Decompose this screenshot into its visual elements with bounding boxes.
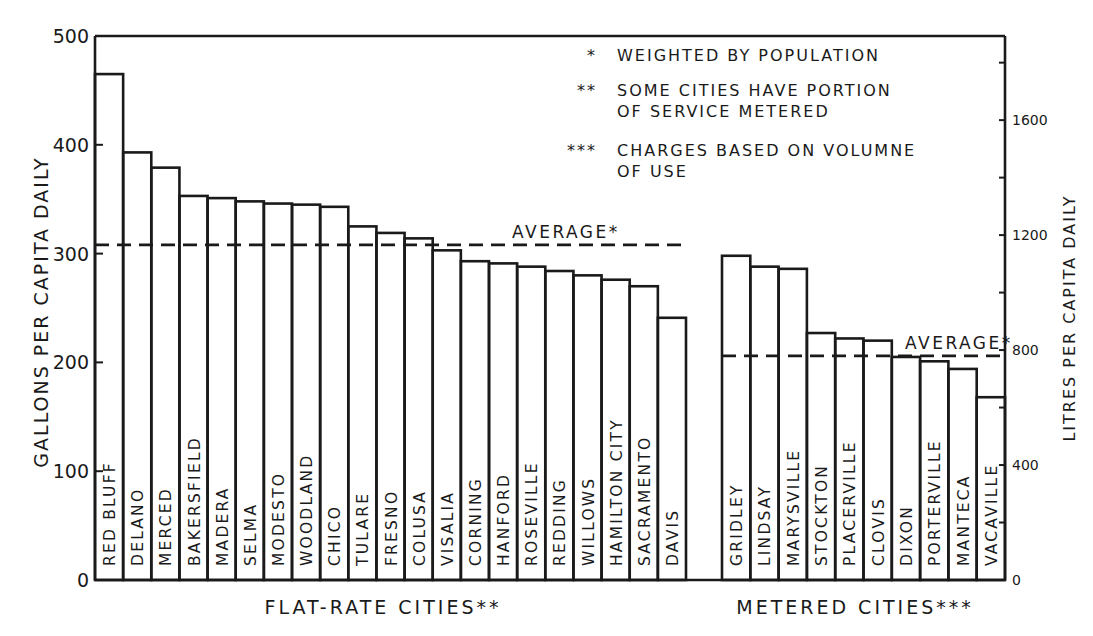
bar-label: DELANO bbox=[129, 488, 147, 566]
bar-label: MADERA bbox=[214, 486, 232, 566]
bar-label: CHICO bbox=[326, 505, 344, 566]
bar-label: DIXON bbox=[898, 505, 916, 566]
average-label-metered: AVERAGE* bbox=[905, 333, 1013, 353]
legend-marker: *** bbox=[567, 141, 597, 160]
legend-entry-text: OF SERVICE METERED bbox=[617, 102, 830, 121]
bar-label: REDDING bbox=[551, 478, 569, 566]
bar-chart: RED BLUFFDELANOMERCEDBAKERSFIELDMADERASE… bbox=[0, 0, 1093, 636]
bar-label: CORNING bbox=[467, 477, 485, 566]
bar-label: BAKERSFIELD bbox=[186, 436, 204, 566]
bar-label: MANTECA bbox=[955, 474, 973, 566]
bar-label: TULARE bbox=[354, 492, 372, 567]
bar-label: MODESTO bbox=[270, 472, 288, 566]
average-label-flat-rate: AVERAGE* bbox=[512, 222, 620, 242]
legend-marker: ** bbox=[577, 81, 597, 100]
bar-label: LINDSAY bbox=[756, 485, 774, 566]
bar-label: STOCKTON bbox=[813, 464, 831, 566]
group-label-metered: METERED CITIES*** bbox=[736, 596, 974, 618]
legend-entry-text: OF USE bbox=[617, 162, 688, 181]
bar-label: GRIDLEY bbox=[728, 483, 746, 566]
y-tick-label-left: 500 bbox=[53, 25, 89, 47]
legend-marker: * bbox=[587, 46, 597, 65]
legend: *WEIGHTED BY POPULATION**SOME CITIES HAV… bbox=[567, 46, 916, 181]
y-axis-title-left: GALLONS PER CAPITA DAILY bbox=[30, 156, 52, 467]
y-tick-label-left: 200 bbox=[53, 351, 89, 373]
y-tick-label-right: 1600 bbox=[1012, 112, 1048, 128]
bar-label: CLOVIS bbox=[870, 497, 888, 566]
bar-label: SELMA bbox=[242, 503, 260, 566]
group-label-flat-rate: FLAT-RATE CITIES** bbox=[265, 596, 502, 618]
legend-entry-text: CHARGES BASED ON VOLUMNE bbox=[617, 141, 916, 160]
bar-label: HANFORD bbox=[495, 473, 513, 566]
legend-entry-text: WEIGHTED BY POPULATION bbox=[617, 46, 880, 65]
y-tick-label-left: 300 bbox=[53, 243, 89, 265]
bar-label: ROSEVILLE bbox=[523, 461, 541, 566]
bar-label: DAVIS bbox=[664, 509, 682, 566]
bar-label: RED BLUFF bbox=[101, 461, 119, 566]
y-tick-label-right: 1200 bbox=[1012, 227, 1048, 243]
bar-label: WILLOWS bbox=[580, 477, 598, 566]
y-tick-label-left: 400 bbox=[53, 134, 89, 156]
y-axis-title-right: LITRES PER CAPITA DAILY bbox=[1060, 194, 1079, 441]
bar-label: WOODLAND bbox=[298, 454, 316, 566]
bar-label: PORTERVILLE bbox=[926, 439, 944, 566]
y-tick-label-right: 0 bbox=[1012, 572, 1021, 588]
bar-label: VISALIA bbox=[439, 491, 457, 566]
bar-label: FRESNO bbox=[383, 490, 401, 566]
y-tick-label-right: 800 bbox=[1012, 342, 1039, 358]
y-tick-label-right: 400 bbox=[1012, 457, 1039, 473]
y-tick-label-left: 100 bbox=[53, 460, 89, 482]
legend-entry-text: SOME CITIES HAVE PORTION bbox=[617, 81, 892, 100]
bar-label: COLUSA bbox=[411, 490, 429, 566]
bar-label: PLACERVILLE bbox=[841, 440, 859, 566]
bar-label: MARYSVILLE bbox=[785, 449, 803, 566]
bar-label: VACAVILLE bbox=[983, 464, 1001, 566]
bar-label: MERCED bbox=[157, 487, 175, 566]
y-tick-label-left: 0 bbox=[77, 569, 89, 591]
bar-label: HAMILTON CITY bbox=[608, 418, 626, 566]
average-lines-layer: AVERAGE*AVERAGE* bbox=[95, 222, 1013, 356]
bar-label: SACRAMENTO bbox=[636, 436, 654, 566]
